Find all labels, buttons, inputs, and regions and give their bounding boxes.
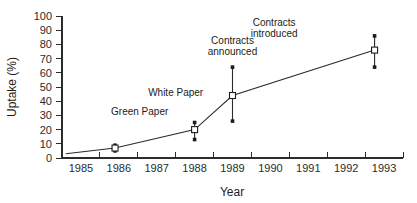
x-tick-label: 1992 bbox=[334, 162, 358, 174]
y-axis-title: Uptake (%) bbox=[5, 57, 19, 117]
error-bar-cap-upper bbox=[231, 65, 235, 69]
annotation-line: Contracts bbox=[253, 17, 296, 28]
chart-annotation: White Paper bbox=[148, 87, 204, 98]
chart-annotation: Contractsintroduced bbox=[251, 17, 298, 39]
annotation-line: Contracts bbox=[211, 35, 254, 46]
annotation-layer: Green PaperWhite PaperContractsannounced… bbox=[111, 17, 297, 117]
y-tick-label: 50 bbox=[40, 81, 52, 93]
y-axis-tick-labels: 0102030405060708090100 bbox=[34, 10, 52, 164]
chart-annotation: Green Paper bbox=[111, 106, 169, 117]
data-point-marker bbox=[372, 47, 378, 53]
x-tick-label: 1985 bbox=[69, 162, 93, 174]
error-bar-cap-upper bbox=[193, 121, 197, 125]
x-tick-label: 1993 bbox=[372, 162, 396, 174]
chart-figure: 0102030405060708090100 Uptake (%) 198519… bbox=[0, 0, 417, 203]
x-tick-label: 1990 bbox=[258, 162, 282, 174]
y-tick-label: 30 bbox=[40, 109, 52, 121]
data-point-marker bbox=[230, 93, 236, 99]
y-tick-label: 100 bbox=[34, 10, 52, 22]
y-tick-label: 60 bbox=[40, 67, 52, 79]
error-bar-cap-upper bbox=[373, 34, 377, 38]
error-bar-cap-lower bbox=[193, 138, 197, 142]
y-tick-label: 70 bbox=[40, 53, 52, 65]
x-tick-label: 1986 bbox=[107, 162, 131, 174]
y-tick-label: 20 bbox=[40, 124, 52, 136]
y-tick-label: 80 bbox=[40, 38, 52, 50]
data-point-marker bbox=[192, 127, 198, 133]
y-axis-group: 0102030405060708090100 Uptake (%) bbox=[5, 10, 62, 164]
error-bar-cap-lower bbox=[373, 65, 377, 69]
uptake-line-chart: 0102030405060708090100 Uptake (%) 198519… bbox=[0, 0, 417, 203]
x-axis-tick-labels: 198519861987198819891990199119921993 bbox=[69, 162, 397, 174]
x-axis-group: 198519861987198819891990199119921993 Yea… bbox=[62, 152, 403, 199]
x-tick-label: 1989 bbox=[220, 162, 244, 174]
y-axis-ticks bbox=[56, 16, 62, 158]
data-point-marker bbox=[112, 145, 118, 151]
y-tick-label: 90 bbox=[40, 24, 52, 36]
annotation-line: introduced bbox=[251, 28, 298, 39]
x-axis-title: Year bbox=[220, 185, 244, 199]
y-tick-label: 10 bbox=[40, 138, 52, 150]
series-line bbox=[66, 50, 375, 154]
x-tick-label: 1987 bbox=[144, 162, 168, 174]
annotation-line: White Paper bbox=[148, 87, 204, 98]
chart-annotation: Contractsannounced bbox=[208, 35, 258, 57]
x-tick-label: 1988 bbox=[182, 162, 206, 174]
x-axis-ticks bbox=[62, 152, 403, 158]
annotation-line: Green Paper bbox=[111, 106, 169, 117]
y-tick-label: 40 bbox=[40, 95, 52, 107]
error-bar-cap-lower bbox=[231, 119, 235, 123]
x-tick-label: 1991 bbox=[296, 162, 320, 174]
annotation-line: announced bbox=[208, 46, 258, 57]
y-tick-label: 0 bbox=[46, 152, 52, 164]
